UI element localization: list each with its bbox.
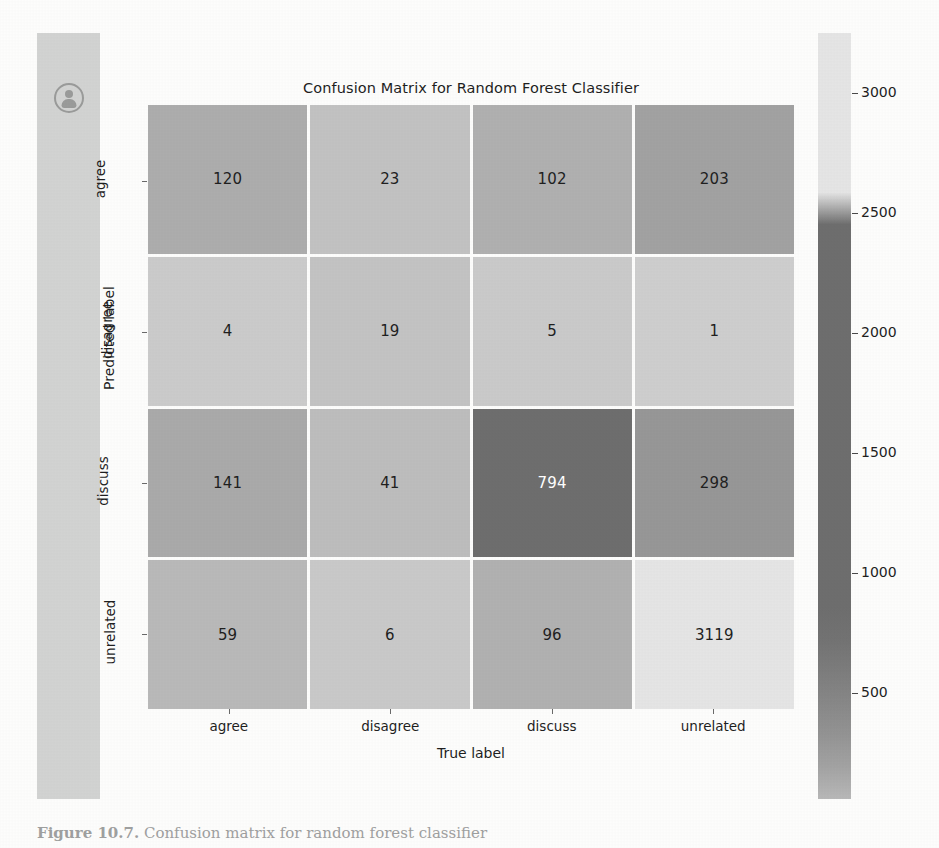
y-axis-tick-disagree: disagree — [78, 322, 122, 338]
heatmap-cell-value: 41 — [380, 474, 400, 492]
heatmap-cell-value: 120 — [213, 170, 242, 188]
y-axis-tick-unrelated: unrelated — [78, 624, 122, 640]
colorbar-tick: 1000 — [852, 564, 897, 580]
heatmap-cell-value: 23 — [380, 170, 400, 188]
heatmap-cell-value: 298 — [700, 474, 729, 492]
y-axis-tick-mark — [142, 332, 147, 333]
heatmap-cell: 41 — [310, 409, 469, 558]
figure-caption-text: Confusion matrix for random forest class… — [139, 824, 487, 842]
heatmap-cell-value: 4 — [223, 322, 233, 340]
heatmap-cell-value: 19 — [380, 322, 400, 340]
confusion-matrix-figure: Confusion Matrix for Random Forest Class… — [0, 0, 939, 800]
heatmap-cell-value: 5 — [547, 322, 557, 340]
heatmap-cell: 794 — [473, 409, 632, 558]
heatmap-cell: 6 — [310, 560, 469, 709]
y-axis-tick-label: discuss — [95, 456, 111, 505]
x-axis-tick-discuss: discuss — [471, 718, 633, 734]
colorbar-tick: 2000 — [852, 324, 897, 340]
y-axis-tick-mark — [142, 181, 147, 182]
heatmap-cell: 96 — [473, 560, 632, 709]
heatmap-cell-value: 59 — [218, 626, 238, 644]
colorbar-tick: 3000 — [852, 84, 897, 100]
colorbar-tick-mark — [852, 213, 858, 214]
x-axis-label: True label — [148, 745, 794, 761]
x-axis-tick-mark — [552, 709, 553, 714]
colorbar-tick-label: 2500 — [861, 204, 897, 220]
heatmap-cell: 298 — [635, 409, 794, 558]
y-axis-tick-label: disagree — [99, 300, 115, 358]
y-axis-tick-agree: agree — [78, 171, 122, 187]
heatmap-cell: 4 — [148, 257, 307, 406]
heatmap-cell: 19 — [310, 257, 469, 406]
x-axis-tick-mark — [390, 709, 391, 714]
heatmap-cell: 120 — [148, 105, 307, 254]
y-axis-tick-mark — [142, 483, 147, 484]
heatmap-cell: 3119 — [635, 560, 794, 709]
colorbar-tick-label: 2000 — [861, 324, 897, 340]
page-title: Confusion Matrix for Random Forest Class… — [148, 80, 794, 96]
heatmap-cell-value: 3119 — [695, 626, 734, 644]
heatmap-cell-value: 96 — [542, 626, 562, 644]
y-axis-tick-label: unrelated — [102, 599, 118, 664]
heatmap-cell: 141 — [148, 409, 307, 558]
figure-number: Figure 10.7. — [37, 824, 139, 842]
heatmap-cell: 1 — [635, 257, 794, 406]
heatmap-cell-value: 141 — [213, 474, 242, 492]
y-axis-tick-label: agree — [92, 159, 108, 198]
colorbar-tick: 1500 — [852, 444, 897, 460]
x-axis-tick-mark — [229, 709, 230, 714]
heatmap-cell: 203 — [635, 105, 794, 254]
colorbar-tick-mark — [852, 333, 858, 334]
colorbar-tick: 2500 — [852, 204, 897, 220]
colorbar-tick-mark — [852, 93, 858, 94]
heatmap-cell-value: 102 — [538, 170, 567, 188]
x-axis-tick-disagree: disagree — [309, 718, 471, 734]
colorbar-tick-label: 1000 — [861, 564, 897, 580]
colorbar-tick-label: 1500 — [861, 444, 897, 460]
heatmap-cell: 59 — [148, 560, 307, 709]
heatmap-cell-value: 794 — [538, 474, 567, 492]
x-axis-tick-agree: agree — [148, 718, 310, 734]
heatmap-cell: 5 — [473, 257, 632, 406]
x-axis-tick-mark — [713, 709, 714, 714]
y-axis-tick-discuss: discuss — [78, 473, 122, 489]
colorbar-tick-mark — [852, 453, 858, 454]
heatmap-cell: 102 — [473, 105, 632, 254]
colorbar-tick-label: 500 — [861, 684, 888, 700]
heatmap-cell-value: 6 — [385, 626, 395, 644]
heatmap-cell-value: 1 — [710, 322, 720, 340]
colorbar-tick-label: 3000 — [861, 84, 897, 100]
colorbar-tick: 500 — [852, 684, 888, 700]
colorbar-tick-mark — [852, 573, 858, 574]
colorbar-tick-mark — [852, 693, 858, 694]
heatmap-grid: 120231022034195114141794298596963119 — [148, 105, 794, 709]
heatmap-cell: 23 — [310, 105, 469, 254]
y-axis-tick-mark — [142, 634, 147, 635]
x-axis-tick-unrelated: unrelated — [632, 718, 794, 734]
heatmap-cell-value: 203 — [700, 170, 729, 188]
figure-caption: Figure 10.7. Confusion matrix for random… — [37, 824, 737, 842]
